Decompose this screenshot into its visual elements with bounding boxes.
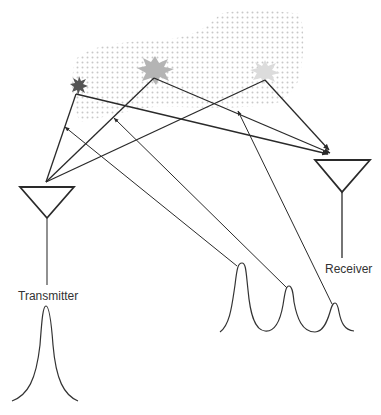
echo-pointers: [65, 111, 332, 304]
transmitter-label: Transmitter: [18, 289, 78, 303]
transmitter-antenna-icon: [20, 187, 74, 285]
multipath-diagram: Transmitter Receiver: [0, 0, 381, 415]
receiver-label: Receiver: [325, 262, 372, 276]
receiver-antenna-icon: [315, 160, 370, 258]
transmitted-pulse-icon: [12, 306, 78, 401]
